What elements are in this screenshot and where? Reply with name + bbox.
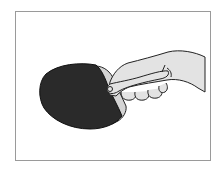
finger — [135, 91, 149, 100]
paddle — [40, 64, 126, 129]
hand — [107, 51, 205, 100]
finger — [159, 83, 168, 93]
fingertip — [108, 87, 113, 92]
table-tennis-grip-illustration — [0, 0, 223, 175]
